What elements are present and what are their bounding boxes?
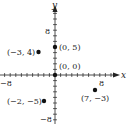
coordinate-plane: x y −8 8 8 −8 (−3, 4) (0, 5) (0, 0) (−2,… xyxy=(0,0,128,128)
x-axis-label: x xyxy=(121,70,126,80)
point-7-neg3: (7, −3) xyxy=(81,88,109,103)
point-label: (7, −3) xyxy=(81,94,109,103)
x-tick-label-neg8: −8 xyxy=(0,79,12,88)
point-label: (0, 5) xyxy=(59,43,81,52)
point-label: (0, 0) xyxy=(59,62,81,71)
y-tick-label-8: 8 xyxy=(45,27,50,36)
x-axis-arrow-icon xyxy=(113,73,120,78)
point-neg3-4: (−3, 4) xyxy=(7,48,41,57)
x-tick-label-8: 8 xyxy=(99,79,104,88)
point-label: (−3, 4) xyxy=(7,48,35,57)
y-axis-label: y xyxy=(51,0,58,10)
point-label: (−2, −5) xyxy=(7,97,42,106)
point-0-5: (0, 5) xyxy=(53,43,81,52)
y-tick-label-neg8: −8 xyxy=(40,115,52,124)
point-neg2-neg5: (−2, −5) xyxy=(7,97,46,106)
